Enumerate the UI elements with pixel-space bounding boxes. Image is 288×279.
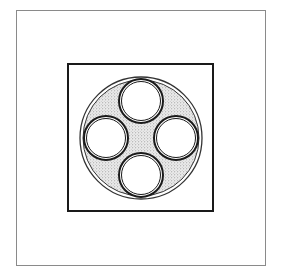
conductor-top [119, 79, 163, 123]
conductor-left [84, 116, 128, 160]
cable-cross-section-diagram [0, 0, 288, 279]
conductor-insulation-ring [119, 153, 163, 197]
conductor-insulation-ring [84, 116, 128, 160]
conductor-insulation-ring [154, 116, 198, 160]
conductor-right [154, 116, 198, 160]
conductor-bottom [119, 153, 163, 197]
conductor-insulation-ring [119, 79, 163, 123]
